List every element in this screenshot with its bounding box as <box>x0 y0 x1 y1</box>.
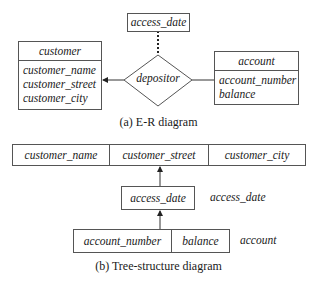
customer-entity: customer customer_name customer_street c… <box>18 41 102 110</box>
relationship-attribute-box: access_date <box>127 13 190 32</box>
leaf-record: account_number balance <box>73 229 230 253</box>
entity-attribute: balance <box>219 87 294 101</box>
entity-attribute: account_number <box>219 73 294 87</box>
leaf-record-label: account <box>240 234 276 246</box>
entity-name: customer <box>19 42 101 61</box>
middle-record: access_date <box>121 186 195 210</box>
record-field: access_date <box>122 187 194 209</box>
entity-attribute: customer_city <box>23 91 97 105</box>
record-field: customer_name <box>13 145 110 165</box>
record-field: customer_street <box>110 145 209 165</box>
entity-name: account <box>215 52 298 71</box>
entity-attribute: customer_name <box>23 63 97 77</box>
er-caption: (a) E-R diagram <box>0 115 317 130</box>
record-field: account_number <box>74 230 172 252</box>
record-field: balance <box>172 230 229 252</box>
middle-record-label: access_date <box>210 191 266 203</box>
record-field: customer_city <box>209 145 305 165</box>
entity-attribute: customer_street <box>23 77 97 91</box>
account-entity: account account_number balance <box>214 51 299 105</box>
root-record: customer_name customer_street customer_c… <box>12 144 306 166</box>
tree-caption: (b) Tree-structure diagram <box>0 259 317 274</box>
relationship-label: depositor <box>124 72 192 84</box>
